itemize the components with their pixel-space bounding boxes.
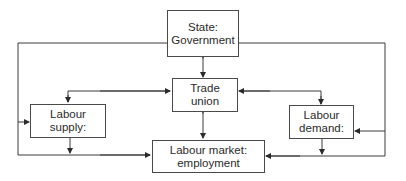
node-trade-union: Trade union	[172, 78, 238, 112]
node-labour-market-employment: Labour market: employment	[152, 140, 265, 173]
node-label: union	[191, 95, 219, 108]
arrow-tradeunion-demand	[239, 91, 321, 104]
node-label: supply:	[50, 121, 86, 134]
node-state-government: State: Government	[167, 10, 239, 57]
node-labour-demand: Labour demand:	[289, 105, 354, 139]
node-label: Labour	[50, 108, 86, 121]
labour-market-diagram: State: Government Trade union Labour sup…	[0, 0, 406, 181]
arrow-tradeunion-supply	[68, 91, 170, 102]
node-label: employment	[177, 157, 240, 170]
loop-left	[18, 43, 167, 155]
node-label: Government	[171, 34, 234, 47]
node-label: Labour	[304, 109, 340, 122]
node-label: Trade	[190, 82, 220, 95]
node-labour-supply: Labour supply:	[30, 104, 106, 138]
node-label: State:	[188, 21, 218, 34]
node-label: demand:	[299, 122, 344, 135]
node-label: Labour market:	[170, 144, 247, 157]
